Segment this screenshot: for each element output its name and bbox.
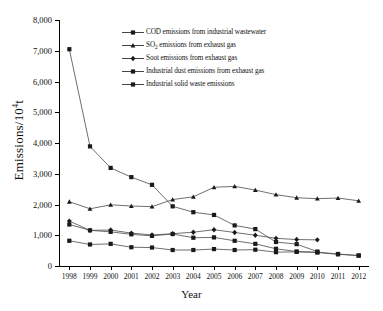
y-tick-label: 6,000: [4, 77, 52, 87]
data-point: [295, 242, 299, 246]
x-tick: [152, 266, 153, 270]
data-point: [129, 245, 133, 249]
x-tick-label: 2011: [331, 272, 346, 281]
data-point: [129, 175, 133, 179]
legend-label: Industrial dust emissions from exhaust g…: [144, 68, 264, 75]
data-point: [357, 253, 361, 257]
data-point: [131, 56, 136, 61]
legend-item-1[interactable]: SO2 emissions from exhaust gas: [122, 39, 266, 52]
x-tick: [69, 266, 70, 270]
x-tick-label: 2009: [289, 272, 304, 281]
data-point: [191, 229, 196, 234]
data-point: [171, 204, 175, 208]
data-point: [315, 249, 319, 253]
data-point: [67, 47, 71, 51]
x-tick: [111, 266, 112, 270]
data-point: [212, 213, 216, 217]
x-tick: [193, 266, 194, 270]
x-tick: [90, 266, 91, 270]
x-tick: [297, 266, 298, 270]
data-point: [67, 199, 72, 203]
y-tick-label: 4,000: [4, 138, 52, 148]
x-tick: [131, 266, 132, 270]
x-tick-label: 2006: [227, 272, 242, 281]
legend-label: SO2 emissions from exhaust gas: [144, 42, 236, 49]
data-point: [212, 247, 216, 251]
x-tick-label: 2008: [269, 272, 284, 281]
data-point: [253, 248, 257, 252]
legend-label: COD emissions from industrial wastewater: [144, 29, 266, 36]
data-point: [191, 194, 196, 198]
data-point: [109, 166, 113, 170]
data-point: [109, 242, 113, 246]
data-point: [274, 250, 278, 254]
data-point: [131, 43, 136, 47]
data-point: [191, 248, 195, 252]
y-axis-title-unit: t: [11, 100, 26, 104]
data-point: [315, 237, 320, 242]
x-tick: [338, 266, 339, 270]
legend-marker-icon: [122, 40, 144, 51]
data-point: [336, 252, 340, 256]
data-point: [171, 248, 175, 252]
data-point: [295, 250, 299, 254]
data-point: [294, 237, 299, 242]
data-point: [88, 242, 92, 246]
y-tick-label: 3,000: [4, 169, 52, 179]
x-tick-label: 2004: [186, 272, 201, 281]
x-tick-label: 2000: [103, 272, 118, 281]
data-point: [233, 248, 237, 252]
legend-marker-icon: [122, 66, 144, 77]
data-point: [233, 239, 237, 243]
legend-item-2[interactable]: Soot emissions from exhaust gas: [122, 52, 266, 65]
x-tick-label: 2001: [124, 272, 139, 281]
x-tick: [276, 266, 277, 270]
x-tick-label: 2002: [145, 272, 160, 281]
data-point: [253, 242, 257, 246]
data-point: [88, 144, 92, 148]
legend-item-0[interactable]: COD emissions from industrial wastewater: [122, 26, 266, 39]
data-point: [274, 240, 278, 244]
data-point: [233, 223, 237, 227]
data-point: [131, 30, 135, 34]
x-tick-label: 2012: [351, 272, 366, 281]
y-tick-label: 1,000: [4, 230, 52, 240]
x-tick: [359, 266, 360, 270]
x-tick: [235, 266, 236, 270]
y-tick-label: 2,000: [4, 200, 52, 210]
legend-item-4[interactable]: Industrial solid waste emissions: [122, 78, 266, 91]
x-tick-label: 2010: [310, 272, 325, 281]
x-tick-label: 2005: [207, 272, 222, 281]
x-axis-title: Year: [0, 288, 383, 300]
x-tick-label: 2003: [165, 272, 180, 281]
chart-figure: Emissions/104t 01,0002,0003,0004,0005,00…: [0, 0, 383, 311]
y-tick-label: 7,000: [4, 46, 52, 56]
legend-marker-icon: [122, 79, 144, 90]
data-point: [191, 236, 195, 240]
data-point: [131, 69, 135, 73]
data-point: [253, 227, 257, 231]
legend-marker-icon: [122, 53, 144, 64]
data-point: [212, 235, 216, 239]
y-tick-label: 5,000: [4, 107, 52, 117]
data-point: [150, 183, 154, 187]
x-tick-label: 1998: [62, 272, 77, 281]
data-point: [212, 227, 217, 232]
x-tick: [317, 266, 318, 270]
x-tick-label: 1999: [83, 272, 98, 281]
chart-legend: COD emissions from industrial wastewater…: [122, 26, 266, 91]
legend-item-3[interactable]: Industrial dust emissions from exhaust g…: [122, 65, 266, 78]
x-tick-label: 2007: [248, 272, 263, 281]
data-point: [67, 239, 71, 243]
data-point: [150, 245, 154, 249]
legend-marker-icon: [122, 27, 144, 38]
x-tick: [173, 266, 174, 270]
x-tick: [214, 266, 215, 270]
x-tick: [255, 266, 256, 270]
legend-label: Industrial solid waste emissions: [144, 81, 234, 88]
data-point: [131, 82, 135, 86]
data-point: [253, 233, 258, 238]
data-point: [232, 230, 237, 235]
y-tick: [55, 266, 59, 267]
legend-label: Soot emissions from exhaust gas: [144, 55, 237, 62]
